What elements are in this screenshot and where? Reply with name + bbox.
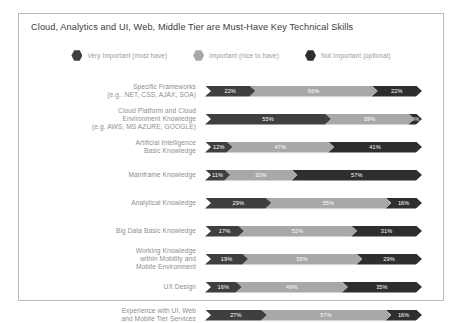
legend-item[interactable]: Very Important (must have) — [71, 50, 167, 61]
bar-segment-value: 56% — [308, 88, 320, 94]
bar-segment[interactable]: 22% — [372, 86, 422, 97]
row-category-label-line: Analytical Knowledge — [19, 199, 196, 207]
hexagon-marker-icon — [71, 50, 82, 61]
row-category-label-line: UX Design — [19, 283, 196, 291]
row-category-label-line: Environment Knowledge — [19, 115, 196, 123]
bar-segment-value: 31% — [381, 228, 393, 234]
bar-segment[interactable]: 27% — [205, 310, 267, 321]
stacked-bar: 12%47%41% — [205, 142, 434, 153]
row-category-label: Big Data Basic Knowledge — [19, 227, 205, 235]
legend-item-label: Not Important (optional) — [321, 52, 391, 59]
row-category-label-line: Specific Frameworks — [19, 83, 196, 91]
bar-segment-value: 53% — [296, 256, 308, 262]
bar-segment[interactable]: 35% — [342, 282, 422, 293]
bar-segment-value: 22% — [391, 88, 403, 94]
hexagon-marker-icon — [305, 50, 316, 61]
bar-segment[interactable]: 39% — [325, 114, 414, 125]
stacked-bar: 16%49%35% — [205, 282, 434, 293]
legend-item[interactable]: Not Important (optional) — [305, 50, 391, 61]
row-category-label-line: (e.g. AWS, MS AZURE, GOOGLE) — [19, 123, 196, 131]
legend-item-label: Important (nice to have) — [209, 52, 279, 59]
stacked-bar: 17%52%31% — [205, 226, 434, 237]
chart-title: Cloud, Analytics and UI, Web, Middle Tie… — [31, 22, 353, 32]
legend-item[interactable]: Important (nice to have) — [193, 50, 279, 61]
chart-container: Cloud, Analytics and UI, Web, Middle Tie… — [18, 13, 444, 301]
stacked-bar: 29%55%16% — [205, 198, 434, 209]
bar-segment[interactable]: 57% — [291, 170, 422, 181]
row-category-label-line: (e.g. .NET, CSS, AJAX, SOA) — [19, 91, 196, 99]
bar-segment[interactable]: 19% — [205, 254, 248, 265]
hexagon-marker-icon — [193, 50, 204, 61]
row-category-label-line: Mainframe Knowledge — [19, 171, 196, 179]
row-category-label-line: and Mobile Tier Services — [19, 315, 196, 323]
row-category-label-line: within Mobility and — [19, 255, 196, 263]
row-category-label: Mainframe Knowledge — [19, 171, 205, 179]
chart-legend: Very Important (must have)Important (nic… — [19, 50, 443, 61]
bar-segment-value: 12% — [213, 144, 225, 150]
bar-segment[interactable]: 29% — [205, 198, 271, 209]
bar-segment[interactable]: 17% — [205, 226, 244, 237]
bar-segment-value: 55% — [262, 116, 274, 122]
bar-segment[interactable]: 32% — [224, 170, 297, 181]
row-category-label: Cloud Platform and CloudEnvironment Know… — [19, 107, 205, 132]
bar-segment[interactable]: 16% — [205, 282, 242, 293]
row-category-label-line: Artificial Intelligence — [19, 139, 196, 147]
row-category-label-line: Mobile Environment — [19, 263, 196, 271]
row-category-label: Specific Frameworks(e.g. .NET, CSS, AJAX… — [19, 83, 205, 99]
bar-segment-value: 16% — [398, 312, 410, 318]
bar-segment[interactable]: 47% — [226, 142, 334, 153]
bar-segment-value: 52% — [292, 228, 304, 234]
bar-segment-value: 35% — [376, 284, 388, 290]
bar-segment[interactable]: 31% — [351, 226, 422, 237]
bar-segment-value: 57% — [320, 312, 332, 318]
stacked-bar: 22%56%22% — [205, 86, 434, 97]
row-category-label-line: Basic Knowledge — [19, 147, 196, 155]
bar-segment-value: 41% — [369, 144, 381, 150]
chart-row: Analytical Knowledge29%55%16% — [19, 190, 443, 216]
chart-rows: Specific Frameworks(e.g. .NET, CSS, AJAX… — [19, 78, 443, 323]
row-category-label-line: Cloud Platform and Cloud — [19, 107, 196, 115]
bar-segment-value: 39% — [364, 116, 376, 122]
bar-segment-value: 57% — [351, 172, 363, 178]
bar-segment[interactable]: 41% — [328, 142, 422, 153]
bar-segment[interactable]: 55% — [205, 114, 331, 125]
bar-segment-value: 16% — [398, 200, 410, 206]
bar-segment-value: 11% — [212, 172, 223, 178]
chart-row: Mainframe Knowledge11%32%57% — [19, 162, 443, 188]
bar-segment[interactable]: 49% — [236, 282, 348, 293]
stacked-bar: 19%53%29% — [205, 254, 434, 265]
row-category-label-line: Experience with UI, Web — [19, 307, 196, 315]
row-category-label-line: Big Data Basic Knowledge — [19, 227, 196, 235]
chart-row: Experience with UI, Weband Mobile Tier S… — [19, 302, 443, 323]
row-category-label: Artificial IntelligenceBasic Knowledge — [19, 139, 205, 155]
bar-segment[interactable]: 55% — [265, 198, 391, 209]
bar-segment-value: 16% — [218, 284, 230, 290]
chart-row: Cloud Platform and CloudEnvironment Know… — [19, 106, 443, 132]
bar-segment-value: 29% — [383, 256, 395, 262]
legend-item-label: Very Important (must have) — [87, 52, 167, 59]
row-category-label: Experience with UI, Weband Mobile Tier S… — [19, 307, 205, 323]
bar-segment[interactable]: 53% — [242, 254, 362, 265]
bar-segment-value: 29% — [232, 200, 244, 206]
stacked-bar: 11%32%57% — [205, 170, 434, 181]
stacked-bar: 55%39%6% — [205, 114, 434, 125]
chart-row: Big Data Basic Knowledge17%52%31% — [19, 218, 443, 244]
bar-segment[interactable]: 52% — [238, 226, 357, 237]
bar-segment-value: 27% — [230, 312, 242, 318]
bar-segment-value: 19% — [221, 256, 233, 262]
bar-segment-value: 22% — [224, 88, 236, 94]
bar-segment-value: 47% — [275, 144, 287, 150]
bar-segment[interactable]: 56% — [249, 86, 377, 97]
row-category-label: Working Knowledgewithin Mobility andMobi… — [19, 247, 205, 272]
bar-segment[interactable]: 22% — [205, 86, 255, 97]
row-category-label-line: Working Knowledge — [19, 247, 196, 255]
chart-row: Specific Frameworks(e.g. .NET, CSS, AJAX… — [19, 78, 443, 104]
bar-segment[interactable]: 29% — [356, 254, 422, 265]
bar-segment-value: 32% — [255, 172, 267, 178]
row-category-label: Analytical Knowledge — [19, 199, 205, 207]
chart-row: Artificial IntelligenceBasic Knowledge12… — [19, 134, 443, 160]
bar-segment-value: 17% — [219, 228, 231, 234]
bar-segment[interactable]: 57% — [261, 310, 392, 321]
row-category-label: UX Design — [19, 283, 205, 291]
bar-segment-value: 55% — [323, 200, 335, 206]
